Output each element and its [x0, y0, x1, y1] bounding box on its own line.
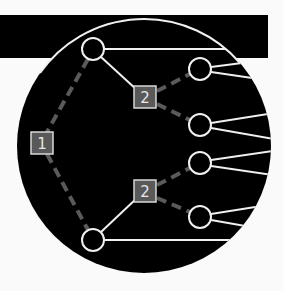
black-disc — [17, 19, 271, 273]
node-right-2 — [189, 114, 211, 136]
node-top — [82, 38, 104, 60]
square-2-bottom: 2 — [134, 180, 156, 202]
decision-tree-diagram: 1 2 2 — [0, 0, 283, 291]
square-2-top: 2 — [134, 86, 156, 108]
square-2-bottom-label: 2 — [140, 183, 150, 201]
node-right-4 — [189, 206, 211, 228]
square-2-top-label: 2 — [140, 89, 150, 107]
node-bottom — [82, 229, 104, 251]
node-right-3 — [189, 152, 211, 174]
square-1-label: 1 — [37, 135, 47, 153]
node-right-1 — [189, 58, 211, 80]
square-1: 1 — [31, 132, 53, 154]
